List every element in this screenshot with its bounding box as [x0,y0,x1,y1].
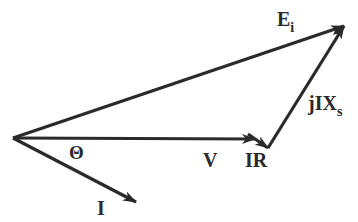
vector-ei [13,26,344,138]
phasor-diagram [0,0,358,222]
label-ir: IR [245,150,267,170]
label-ei: Ei [277,9,294,29]
vector-jixs [268,26,344,148]
label-ei-main: E [277,8,290,30]
label-jixs: jIXs [308,93,342,113]
vector-ir [248,134,268,148]
label-v: V [203,150,217,170]
vector-v [13,138,255,139]
label-i: I [97,198,105,218]
label-jixs-sub: s [337,104,342,119]
label-theta: Θ [69,143,84,162]
label-jixs-main: jIX [308,92,337,114]
label-ei-sub: i [290,20,294,35]
